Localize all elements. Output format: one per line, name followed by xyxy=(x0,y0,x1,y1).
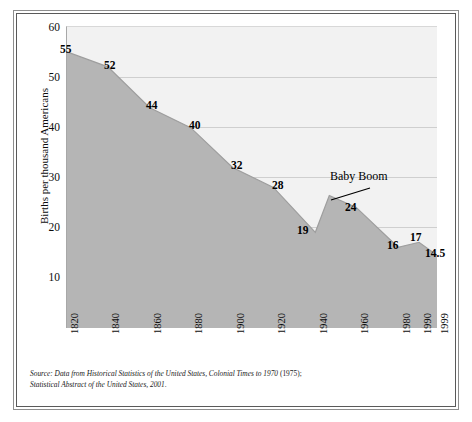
x-tick-1900: 1900 xyxy=(236,313,247,334)
chart-figure: 60 50 40 30 20 10 Births per thousand Am… xyxy=(0,0,472,422)
x-tick-1880: 1880 xyxy=(194,313,205,334)
data-label-1990: 17 xyxy=(410,232,422,244)
data-label-1840: 52 xyxy=(104,60,116,72)
x-tick-1990: 1990 xyxy=(423,313,434,334)
source-line1-text: Data from Historical Statistics of the U… xyxy=(55,369,302,378)
y-axis: 60 50 40 30 20 10 xyxy=(0,0,66,422)
data-label-1820: 55 xyxy=(60,44,72,56)
source-line2-italic: Statistical Abstract of the United State… xyxy=(30,380,165,389)
y-axis-title: Births per thousand Americans xyxy=(38,46,50,266)
y-tick-60: 60 xyxy=(26,22,60,34)
data-label-1960: 24 xyxy=(345,202,357,214)
data-label-1860: 44 xyxy=(146,100,158,112)
x-tick-1860: 1860 xyxy=(153,313,164,334)
data-label-1980: 16 xyxy=(387,240,399,252)
x-tick-1960: 1960 xyxy=(360,313,371,334)
source-line2-suffix: . xyxy=(165,380,167,389)
y-tick-10: 10 xyxy=(26,272,60,284)
data-label-1900: 32 xyxy=(231,160,243,172)
x-tick-1840: 1840 xyxy=(111,313,122,334)
x-tick-1820: 1820 xyxy=(70,313,81,334)
source-note-line-2: Statistical Abstract of the United State… xyxy=(30,380,430,391)
source-note-line-1: Source: Data from Historical Statistics … xyxy=(30,369,430,380)
data-label-1940: 19 xyxy=(297,225,309,237)
data-label-1880: 40 xyxy=(189,120,201,132)
x-tick-1980: 1980 xyxy=(402,313,413,334)
source-note: Source: Data from Historical Statistics … xyxy=(30,369,430,390)
data-label-1920: 28 xyxy=(272,180,284,192)
source-line1-suffix: (1975); xyxy=(278,369,302,378)
x-tick-1940: 1940 xyxy=(319,313,330,334)
annotation-baby-boom: Baby Boom xyxy=(330,170,388,182)
x-tick-1999: 1999 xyxy=(440,313,451,334)
source-line1-italic: Data from Historical Statistics of the U… xyxy=(55,369,279,378)
source-label: Source: xyxy=(30,369,55,378)
x-tick-1920: 1920 xyxy=(277,313,288,334)
data-label-1999: 14.5 xyxy=(425,248,445,260)
